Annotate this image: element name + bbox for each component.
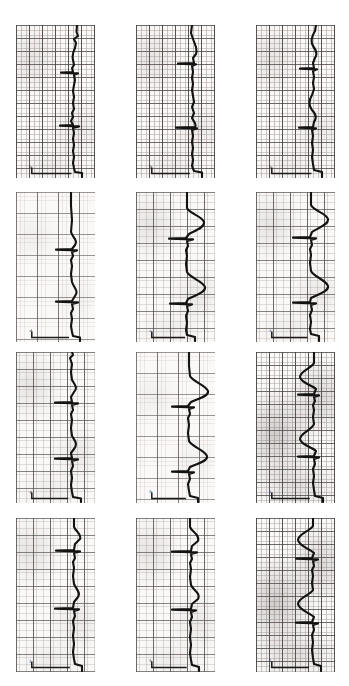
ecg-trace-svg — [256, 25, 335, 178]
ecg-waveform-trace — [298, 352, 323, 502]
ecg-scan-shading — [256, 25, 335, 178]
ecg-strip-panel: h — [136, 352, 215, 503]
ecg-paper-background — [256, 352, 335, 503]
ecg-waveform-trace — [56, 192, 80, 341]
panel-corner-mark: a — [29, 164, 31, 169]
ecg-scan-shading — [136, 518, 215, 672]
ecg-trace-svg — [16, 352, 95, 503]
ecg-grid-fine — [16, 518, 95, 672]
ecg-strip-panel: c — [256, 25, 335, 178]
ecg-grid-bold — [256, 518, 335, 672]
ecg-waveform-trace — [172, 518, 199, 671]
ecg-calibration-mark — [152, 168, 190, 174]
ecg-paper-background — [136, 518, 215, 672]
ecg-waveform-trace — [55, 352, 81, 502]
ecg-waveform-trace — [169, 192, 205, 341]
ecg-strip-panel: d — [16, 192, 95, 342]
ecg-calibration-mark — [152, 662, 187, 668]
ecg-trace-svg — [256, 192, 335, 342]
ecg-scan-shading — [16, 192, 95, 342]
ecg-grid-fine — [256, 25, 335, 178]
ecg-paper-background — [136, 25, 215, 178]
ecg-grid-fine — [256, 352, 335, 503]
ecg-paper-background — [16, 25, 95, 178]
panel-corner-mark: b — [149, 164, 152, 169]
ecg-grid-fine — [256, 192, 335, 342]
ecg-paper-background — [16, 192, 95, 342]
ecg-calibration-mark — [32, 662, 70, 668]
ecg-trace-svg — [256, 518, 335, 672]
ecg-paper-background — [256, 518, 335, 672]
ecg-strip-panel: e — [136, 192, 215, 342]
ecg-grid-bold — [136, 25, 215, 178]
ecg-grid-bold — [256, 25, 335, 178]
ecg-scan-shading — [256, 518, 335, 672]
ecg-calibration-mark — [272, 168, 312, 174]
ecg-trace-svg — [16, 192, 95, 342]
ecg-trace-svg — [136, 192, 215, 342]
ecg-calibration-mark — [272, 493, 310, 499]
ecg-grid-fine — [136, 518, 215, 672]
ecg-trace-svg — [136, 25, 215, 178]
ecg-grid-fine — [16, 352, 95, 503]
ecg-paper-background — [136, 352, 215, 503]
ecg-paper-background — [256, 25, 335, 178]
ecg-grid-fine — [16, 192, 95, 342]
ecg-calibration-mark — [152, 493, 186, 499]
ecg-scan-shading — [16, 352, 95, 503]
ecg-strip-panel: i — [256, 352, 335, 503]
ecg-grid-fine — [16, 25, 95, 178]
ecg-grid-bold — [256, 352, 335, 503]
ecg-waveform-trace — [55, 518, 82, 671]
ecg-paper-background — [136, 192, 215, 342]
ecg-calibration-mark — [272, 662, 309, 668]
ecg-strip-panel: j — [16, 518, 95, 672]
panel-corner-mark: g — [29, 489, 32, 494]
panel-corner-mark: d — [29, 328, 32, 333]
ecg-strip-panel: b — [136, 25, 215, 178]
panel-corner-mark: f — [269, 328, 271, 333]
ecg-scan-shading — [256, 192, 335, 342]
ecg-grid-bold — [16, 25, 95, 178]
ecg-grid-bold — [16, 518, 95, 672]
ecg-trace-svg — [16, 25, 95, 178]
ecg-calibration-mark — [32, 332, 69, 338]
ecg-strip-panel: k — [136, 518, 215, 672]
panel-corner-mark: l — [269, 658, 270, 663]
ecg-grid-fine — [256, 518, 335, 672]
ecg-grid-fine — [136, 25, 215, 178]
ecg-grid-fine — [136, 352, 215, 503]
ecg-grid-fine — [136, 192, 215, 342]
ecg-scan-shading — [256, 352, 335, 503]
ecg-montage-figure: abcdefghijkl — [0, 0, 349, 686]
ecg-grid-bold — [136, 518, 215, 672]
ecg-waveform-trace — [293, 192, 328, 341]
ecg-paper-background — [16, 352, 95, 503]
ecg-waveform-trace — [172, 352, 208, 502]
ecg-strip-panel: g — [16, 352, 95, 503]
ecg-calibration-mark — [152, 332, 185, 338]
ecg-waveform-trace — [296, 518, 321, 671]
ecg-scan-shading — [16, 518, 95, 672]
ecg-calibration-mark — [272, 332, 308, 338]
ecg-scan-shading — [136, 192, 215, 342]
ecg-grid-bold — [136, 352, 215, 503]
panel-corner-mark: e — [149, 328, 151, 333]
ecg-paper-background — [16, 518, 95, 672]
panel-corner-mark: k — [149, 658, 152, 663]
ecg-waveform-trace — [60, 25, 82, 177]
panel-corner-mark: h — [149, 489, 152, 494]
panel-corner-mark: i — [269, 489, 270, 494]
ecg-calibration-mark — [32, 168, 72, 174]
ecg-trace-svg — [16, 518, 95, 672]
ecg-scan-shading — [16, 25, 95, 178]
ecg-grid-bold — [256, 192, 335, 342]
ecg-waveform-trace — [299, 25, 322, 177]
ecg-grid-bold — [136, 192, 215, 342]
panel-corner-mark: c — [269, 164, 271, 169]
ecg-calibration-mark — [32, 493, 68, 499]
ecg-scan-shading — [136, 25, 215, 178]
ecg-waveform-trace — [176, 25, 202, 177]
ecg-trace-svg — [136, 352, 215, 503]
ecg-grid-bold — [16, 192, 95, 342]
